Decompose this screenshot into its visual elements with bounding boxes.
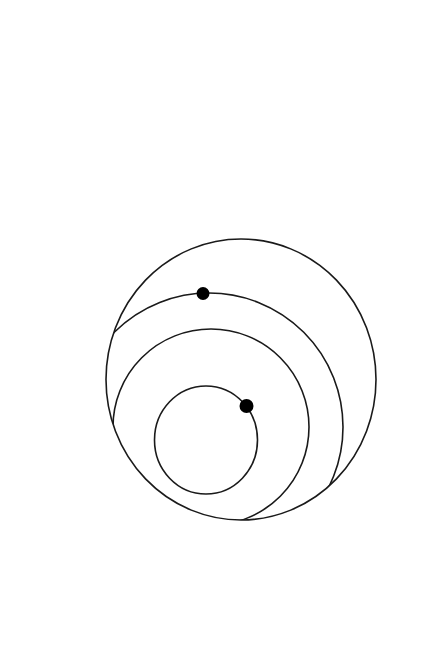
clipped-inner-group bbox=[75, 293, 343, 561]
dot-on-middle-circle bbox=[197, 287, 210, 300]
middle-circle bbox=[75, 293, 343, 561]
dot-on-inner-circle bbox=[240, 399, 254, 413]
third-circle bbox=[113, 329, 309, 525]
outer-circle bbox=[106, 239, 376, 520]
nested-circles-diagram bbox=[0, 0, 432, 651]
